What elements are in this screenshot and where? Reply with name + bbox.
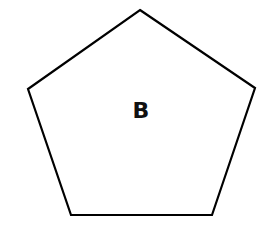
pentagon-label: B: [133, 98, 150, 123]
diagram-canvas: B: [0, 0, 271, 227]
